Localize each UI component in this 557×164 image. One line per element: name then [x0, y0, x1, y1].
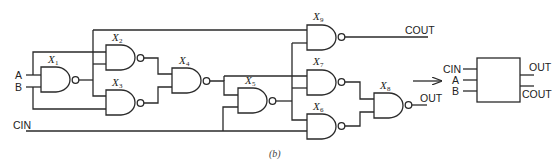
gate-x6: X 6 [307, 100, 345, 139]
svg-text:1: 1 [55, 59, 59, 67]
gate-x1: X 1 [41, 53, 79, 92]
svg-text:9: 9 [320, 16, 324, 24]
svg-text:3: 3 [119, 82, 123, 90]
gate-x9: X 9 [307, 10, 345, 50]
output-out-label: OUT [420, 92, 443, 104]
output-cout-label: COUT [405, 24, 435, 36]
input-a-label: A [15, 69, 22, 81]
input-cin-label: CIN [13, 119, 31, 131]
figure-caption: (b) [269, 148, 281, 160]
block-output-cout: COUT [522, 88, 552, 100]
input-b-label: B [15, 81, 22, 93]
gate-x2: X 2 [106, 31, 144, 70]
svg-text:7: 7 [320, 61, 324, 69]
svg-text:5: 5 [252, 80, 256, 88]
svg-text:8: 8 [387, 85, 391, 93]
gate-x5: X 5 [238, 74, 276, 113]
block-output-out: OUT [529, 61, 552, 73]
gate-x4: X 4 [172, 54, 210, 93]
full-adder-nand-diagram: X 1 X 2 X 3 X 4 X 5 X 9 X 7 X [0, 0, 557, 164]
gate-x8: X 8 [374, 79, 412, 118]
svg-text:2: 2 [119, 37, 123, 45]
gate-x7: X 7 [307, 55, 345, 95]
svg-text:6: 6 [320, 106, 324, 114]
block-input-b: B [452, 85, 459, 97]
full-adder-block: CIN A B OUT COUT [443, 58, 552, 102]
svg-text:4: 4 [186, 60, 190, 68]
gate-x3: X 3 [106, 76, 144, 115]
